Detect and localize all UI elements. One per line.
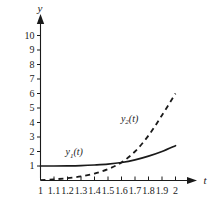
y-tick-label: 2 <box>30 146 35 157</box>
x-axis-tick-labels: 11.11.21.31.41.51.61.71.81.92 <box>38 185 178 196</box>
plot-area: 12345678910 11.11.21.31.41.51.61.71.81.9… <box>0 0 214 212</box>
chart-figure: 12345678910 11.11.21.31.41.51.61.71.81.9… <box>0 0 214 212</box>
x-tick-label: 1.1 <box>48 185 61 196</box>
x-tick-label: 1 <box>38 185 43 196</box>
y-axis-label: y <box>37 2 43 14</box>
x-tick-label: 1.4 <box>88 185 101 196</box>
curve-y1 <box>41 146 176 166</box>
x-axis-label: t <box>203 174 207 186</box>
curve-label-y2: y2(t) <box>120 113 139 127</box>
curve-y2 <box>41 94 176 181</box>
curve-label-y1: y1(t) <box>65 146 84 160</box>
y-tick-label: 6 <box>30 88 35 99</box>
x-tick-label: 1.5 <box>102 185 115 196</box>
y-axis-tick-labels: 12345678910 <box>25 30 35 172</box>
x-tick-label: 2 <box>173 185 178 196</box>
y-tick-label: 9 <box>30 44 35 55</box>
y-tick-label: 5 <box>30 102 35 113</box>
x-tick-label: 1.3 <box>75 185 88 196</box>
x-tick-label: 1.7 <box>129 185 142 196</box>
x-tick-label: 1.6 <box>115 185 128 196</box>
y-tick-label: 7 <box>30 73 35 84</box>
y-tick-label: 3 <box>30 131 35 142</box>
x-tick-label: 1.9 <box>156 185 169 196</box>
y-tick-label: 4 <box>30 117 35 128</box>
x-tick-label: 1.2 <box>61 185 74 196</box>
y-tick-label: 1 <box>30 160 35 171</box>
y-tick-label: 8 <box>30 59 35 70</box>
x-axis-arrow <box>187 177 197 184</box>
y-tick-label: 10 <box>25 30 35 41</box>
x-tick-label: 1.8 <box>142 185 155 196</box>
y-axis-arrow <box>37 14 44 24</box>
